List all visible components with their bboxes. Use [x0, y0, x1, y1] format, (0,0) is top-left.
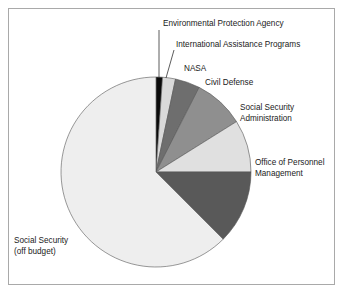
leader-lines — [159, 30, 174, 78]
label-nasa: NASA — [184, 64, 207, 73]
pie-slices — [61, 77, 251, 267]
label-epa: Environmental Protection Agency — [163, 19, 285, 28]
label-iap: International Assistance Programs — [176, 40, 300, 49]
label-ssa-line1: Social Security — [240, 103, 295, 112]
leader-line-iap — [166, 50, 174, 78]
label-opm-line2: Management — [255, 169, 304, 178]
label-opm-line1: Office of Personnel — [255, 158, 325, 167]
label-ssa-line2: Administration — [240, 114, 292, 123]
chart-figure: Environmental Protection Agency Internat… — [0, 0, 344, 294]
label-civil-defense: Civil Defense — [205, 78, 254, 87]
label-social-security-offbudget-line1: Social Security — [14, 236, 69, 245]
pie-chart: Environmental Protection Agency Internat… — [0, 0, 344, 294]
label-social-security-offbudget-line2: (off budget) — [14, 247, 56, 256]
